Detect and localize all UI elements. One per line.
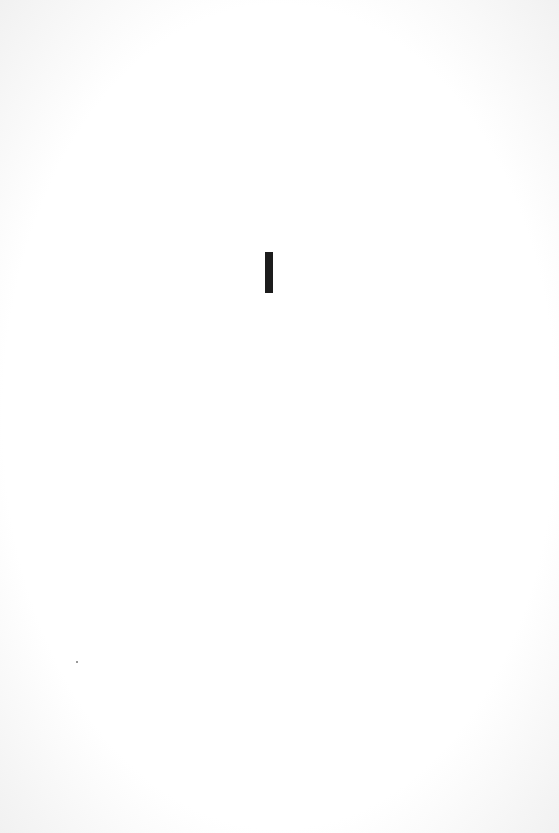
vertical-bar-mark [265,252,273,293]
blank-page [0,0,559,833]
speck-mark [76,661,78,663]
